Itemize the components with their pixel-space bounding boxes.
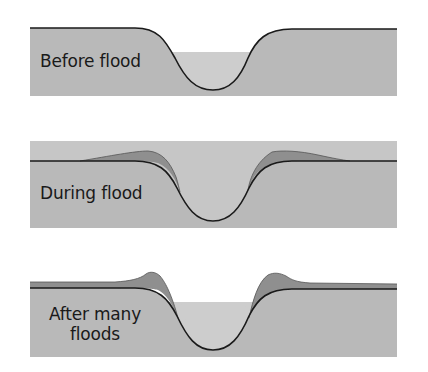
label-before-flood: Before flood (40, 51, 141, 71)
label-during-flood: During flood (40, 183, 142, 203)
label-line-1: After many (40, 304, 150, 324)
label-line-2: floods (40, 324, 150, 344)
label-after-many-floods: After many floods (40, 304, 150, 344)
